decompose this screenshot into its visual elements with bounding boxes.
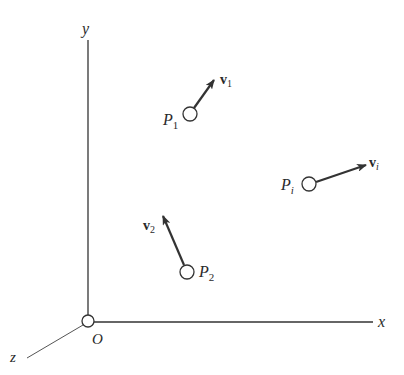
svg-text:vi: vi bbox=[369, 155, 379, 172]
particle-i: Pi vi bbox=[280, 155, 379, 196]
y-axis-label: y bbox=[80, 20, 90, 38]
particle-1: P1 v1 bbox=[162, 72, 232, 131]
velocity-2-subscript: 2 bbox=[150, 224, 155, 235]
particle-2-subscript: 2 bbox=[209, 271, 215, 283]
particle-system-diagram: y x z O P1 v1 P2 v2 Pi vi bbox=[0, 0, 404, 375]
particle-i-circle bbox=[302, 177, 316, 191]
svg-text:P2: P2 bbox=[198, 263, 214, 283]
particle-2: P2 v2 bbox=[143, 216, 214, 283]
x-axis-label: x bbox=[377, 313, 385, 330]
origin-point bbox=[82, 315, 94, 327]
origin-label: O bbox=[92, 331, 103, 347]
velocity-1-subscript: 1 bbox=[227, 78, 232, 89]
velocity-1-label: v bbox=[220, 72, 227, 87]
particle-i-subscript: i bbox=[291, 184, 294, 196]
particle-2-circle bbox=[180, 265, 194, 279]
svg-text:P1: P1 bbox=[162, 111, 178, 131]
svg-text:v1: v1 bbox=[220, 72, 232, 89]
velocity-vector-2 bbox=[163, 216, 184, 265]
particle-1-label: P bbox=[162, 111, 173, 128]
velocity-i-label: v bbox=[369, 155, 376, 170]
velocity-i-subscript: i bbox=[376, 161, 379, 172]
velocity-vector-i bbox=[316, 165, 366, 182]
velocity-vector-1 bbox=[194, 80, 214, 108]
particle-i-label: P bbox=[280, 176, 291, 193]
particle-2-label: P bbox=[198, 263, 209, 280]
particle-1-circle bbox=[183, 107, 197, 121]
z-axis bbox=[27, 325, 83, 358]
particle-1-subscript: 1 bbox=[173, 119, 179, 131]
svg-text:v2: v2 bbox=[143, 218, 155, 235]
svg-text:Pi: Pi bbox=[280, 176, 294, 196]
z-axis-label: z bbox=[9, 349, 16, 365]
velocity-2-label: v bbox=[143, 218, 150, 233]
